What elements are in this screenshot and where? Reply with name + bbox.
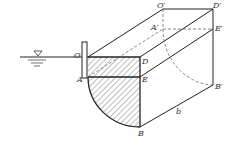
label-B-prime: B′ [214,82,223,91]
label-D-prime: D′ [212,1,221,10]
label-E-prime: E′ [214,24,223,33]
label-A: A [76,75,83,84]
label-b: b [176,107,181,116]
label-E: E [141,75,148,84]
edge-BB-prime [140,85,213,127]
water-level-triangle-icon [34,51,42,56]
label-A-prime: A′ [150,23,159,32]
label-D: D [141,57,149,66]
gate-diagram: O A D E B O′ A′ D′ E′ B′ b [0,0,240,145]
label-B: B [137,129,144,138]
hatched-section [88,57,140,127]
label-O-prime: O′ [157,1,166,10]
gate-plate [82,42,87,78]
label-O: O [74,51,81,60]
edge-EE-prime [140,29,213,77]
